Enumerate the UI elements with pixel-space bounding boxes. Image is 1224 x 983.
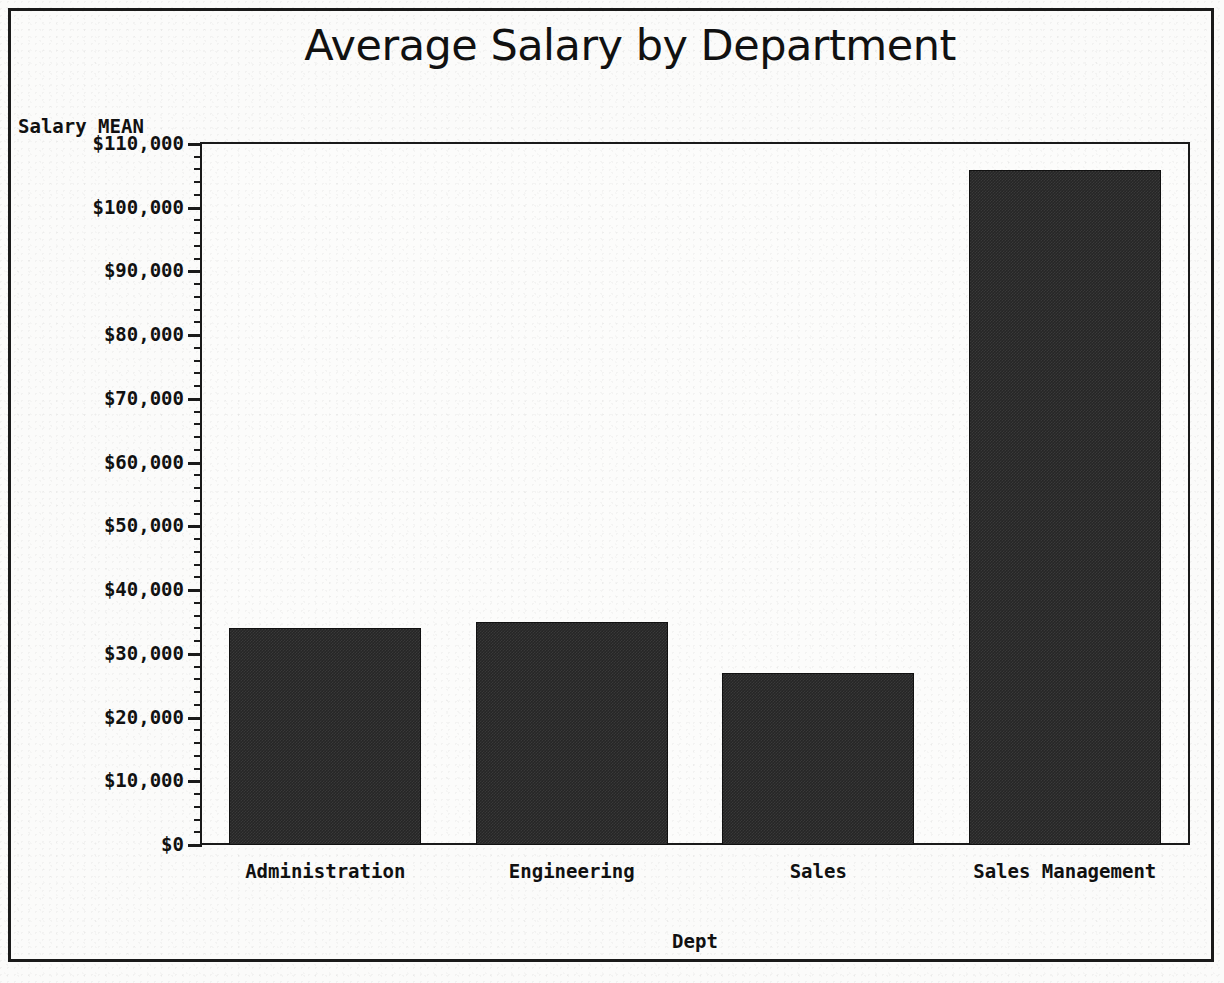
x-tick-label: Engineering [509, 860, 635, 882]
bar [722, 673, 914, 845]
tick-mark [194, 806, 202, 808]
tick-mark [194, 627, 202, 629]
y-tick-label: $50,000 [104, 514, 184, 536]
tick-mark [194, 564, 202, 566]
x-tick-label: Sales Management [973, 860, 1156, 882]
tick-mark [194, 232, 202, 234]
y-tick-label: $110,000 [92, 132, 184, 154]
chart-title: Average Salary by Department [200, 20, 1060, 70]
tick-mark [194, 768, 202, 770]
tick-mark [194, 168, 202, 170]
bar [476, 622, 668, 845]
tick-mark [194, 194, 202, 196]
tick-mark [194, 640, 202, 642]
bar [229, 628, 421, 845]
tick-mark [194, 219, 202, 221]
tick-mark [194, 245, 202, 247]
tick-mark [194, 423, 202, 425]
tick-mark [194, 602, 202, 604]
x-axis-labels: AdministrationEngineeringSalesSales Mana… [202, 860, 1188, 894]
tick-mark [194, 321, 202, 323]
tick-mark [194, 691, 202, 693]
tick-mark [194, 436, 202, 438]
tick-mark [194, 793, 202, 795]
y-tick-label: $30,000 [104, 642, 184, 664]
tick-mark [188, 462, 202, 465]
tick-mark [188, 270, 202, 273]
tick-mark [194, 487, 202, 489]
tick-mark [194, 831, 202, 833]
y-tick-label: $90,000 [104, 259, 184, 281]
tick-mark [188, 525, 202, 528]
tick-mark [194, 678, 202, 680]
y-tick-label: $20,000 [104, 706, 184, 728]
tick-mark [194, 296, 202, 298]
y-tick-label: $60,000 [104, 451, 184, 473]
plot-area: $0$10,000$20,000$30,000$40,000$50,000$60… [202, 144, 1188, 845]
tick-mark [194, 258, 202, 260]
tick-mark [194, 411, 202, 413]
y-tick-label: $40,000 [104, 578, 184, 600]
tick-mark [194, 819, 202, 821]
bars-layer [202, 144, 1188, 845]
tick-mark [194, 500, 202, 502]
tick-mark [188, 780, 202, 783]
bar [969, 170, 1161, 846]
y-tick-label: $100,000 [92, 196, 184, 218]
tick-mark [188, 334, 202, 337]
tick-mark [194, 615, 202, 617]
tick-mark [188, 207, 202, 210]
tick-mark [194, 576, 202, 578]
tick-mark [194, 156, 202, 158]
tick-mark [194, 449, 202, 451]
x-axis-title: Dept [200, 930, 1190, 952]
tick-mark [188, 398, 202, 401]
tick-mark [188, 589, 202, 592]
tick-mark [188, 653, 202, 656]
tick-mark [194, 347, 202, 349]
tick-mark [194, 755, 202, 757]
chart-page: Average Salary by Department Salary MEAN… [0, 0, 1224, 983]
tick-mark [194, 181, 202, 183]
x-tick-label: Sales [790, 860, 847, 882]
y-tick-label: $70,000 [104, 387, 184, 409]
tick-mark [194, 666, 202, 668]
tick-mark [194, 372, 202, 374]
tick-mark [194, 309, 202, 311]
tick-mark [188, 143, 202, 146]
tick-mark [194, 704, 202, 706]
tick-mark [194, 729, 202, 731]
tick-mark [188, 717, 202, 720]
x-tick-label: Administration [245, 860, 405, 882]
y-tick-label: $0 [161, 833, 184, 855]
tick-mark [188, 844, 202, 847]
tick-mark [194, 538, 202, 540]
y-tick-label: $10,000 [104, 769, 184, 791]
tick-mark [194, 474, 202, 476]
tick-mark [194, 385, 202, 387]
tick-mark [194, 283, 202, 285]
tick-mark [194, 360, 202, 362]
y-tick-label: $80,000 [104, 323, 184, 345]
tick-mark [194, 742, 202, 744]
tick-mark [194, 551, 202, 553]
tick-mark [194, 513, 202, 515]
